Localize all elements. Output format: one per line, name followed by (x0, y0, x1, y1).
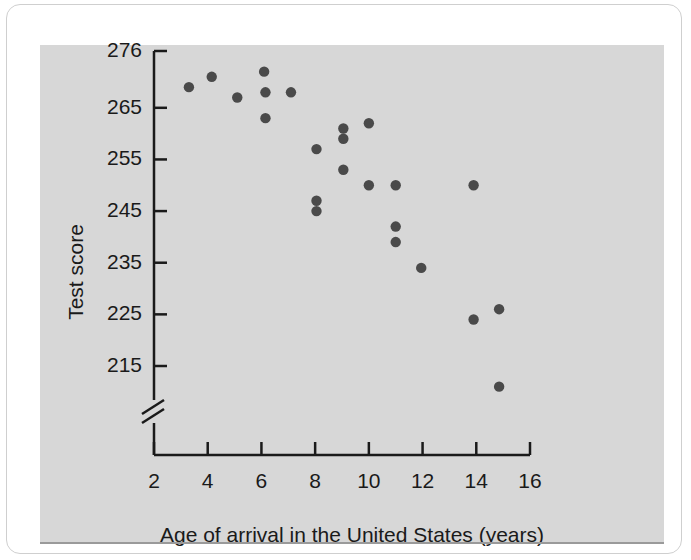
data-point (311, 196, 321, 206)
figure-card: Test score Age of arrival in the United … (6, 4, 682, 554)
x-tick-label: 16 (510, 469, 550, 493)
y-tick-label: 225 (86, 301, 142, 325)
y-tick-label: 276 (86, 38, 142, 62)
y-tick-label: 265 (86, 95, 142, 119)
scatterplot-canvas (40, 45, 664, 542)
data-point (364, 180, 374, 190)
data-point (232, 92, 242, 102)
y-tick-label: 245 (86, 198, 142, 222)
data-point (391, 237, 401, 247)
data-point (338, 165, 348, 175)
x-tick-label: 10 (349, 469, 389, 493)
data-point (338, 123, 348, 133)
y-axis-title: Test score (64, 192, 88, 352)
x-tick-label: 8 (295, 469, 335, 493)
data-point (391, 221, 401, 231)
x-tick-label: 6 (241, 469, 281, 493)
data-point (286, 87, 296, 97)
data-point (260, 87, 270, 97)
data-point (494, 304, 504, 314)
data-point (311, 144, 321, 154)
plot-panel: Test score Age of arrival in the United … (40, 45, 664, 542)
data-point (338, 134, 348, 144)
data-point (416, 263, 426, 273)
y-axis-break-marker (142, 400, 164, 423)
x-axis-title: Age of arrival in the United States (yea… (40, 523, 664, 547)
x-tick-label: 12 (403, 469, 443, 493)
data-point (259, 66, 269, 76)
x-tick-label: 4 (188, 469, 228, 493)
x-tick-label: 2 (134, 469, 174, 493)
data-point (468, 314, 478, 324)
data-point (364, 118, 374, 128)
y-tick-label: 255 (86, 146, 142, 170)
data-point (494, 381, 504, 391)
x-tick-label: 14 (456, 469, 496, 493)
data-point (468, 180, 478, 190)
data-point (184, 82, 194, 92)
data-point (207, 72, 217, 82)
y-tick-label: 215 (86, 353, 142, 377)
y-tick-label: 235 (86, 250, 142, 274)
data-point (311, 206, 321, 216)
data-point (260, 113, 270, 123)
data-point (391, 180, 401, 190)
